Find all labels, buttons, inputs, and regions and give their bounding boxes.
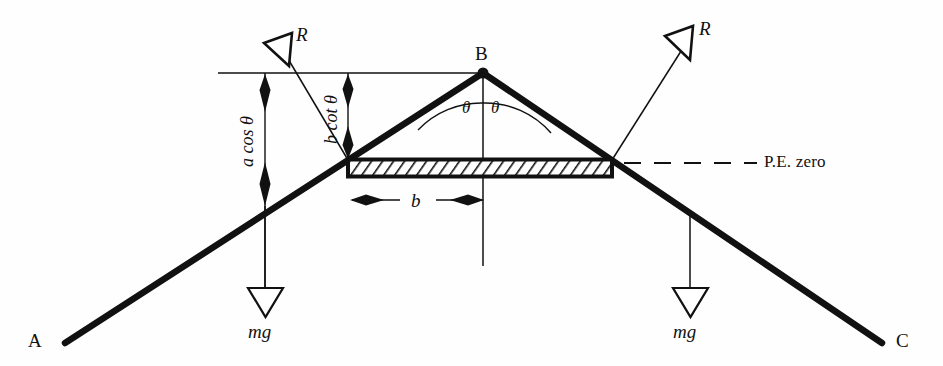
angle-label-right: θ — [491, 99, 499, 116]
dimension-label-b-cot-theta: b cot θ — [322, 95, 340, 144]
arrowhead-weight-left — [248, 288, 283, 317]
force-label-reaction-right: R — [699, 19, 711, 38]
diagram-vector-layer — [0, 0, 943, 366]
arrowhead-a-bottom — [260, 162, 271, 206]
pe-zero-label: P.E. zero — [764, 153, 826, 170]
force-label-weight-right: mg — [673, 322, 696, 341]
arrowhead-b-left — [350, 195, 384, 206]
arrowhead-b-right — [450, 195, 484, 206]
dimension-label-b: b — [411, 191, 421, 210]
arrowhead-weight-right — [673, 288, 708, 317]
force-label-reaction-left: R — [296, 25, 308, 44]
hatched-block — [348, 160, 612, 177]
weight-force-right — [673, 215, 708, 317]
arrowhead-reaction-left — [264, 33, 292, 66]
vertex-label-a: A — [28, 331, 42, 350]
angle-label-left: θ — [462, 99, 470, 116]
arrowhead-a-top — [260, 74, 271, 112]
dimension-b-cot-theta — [343, 73, 354, 160]
arrowhead-bcot-top — [343, 74, 354, 108]
force-label-weight-left: mg — [248, 322, 271, 341]
vertex-label-b: B — [475, 44, 488, 63]
dimension-label-a-cos-theta: a cos θ — [238, 116, 256, 167]
vertex-label-c: C — [896, 331, 909, 350]
reaction-force-right — [612, 26, 693, 160]
physics-diagram-canvas: A B C θ θ R R mg mg a cos θ b cot θ b P.… — [0, 0, 943, 366]
